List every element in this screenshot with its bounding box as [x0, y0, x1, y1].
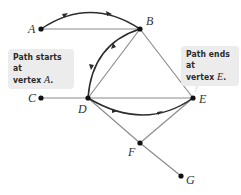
callout-end-line2: vertex E. [186, 71, 234, 83]
edge-f-g [140, 143, 181, 176]
callout-start-suffix: . [50, 75, 53, 85]
callout-path-end: Path ends at vertex E. [181, 46, 239, 86]
vertex-label-e: E [198, 92, 207, 106]
vertex-c [38, 95, 43, 100]
vertex-b [137, 26, 142, 31]
callout-end-suffix: . [223, 72, 226, 82]
callout-end-prefix: vertex [186, 72, 217, 82]
vertex-label-a: A [27, 22, 36, 36]
edge-f-e [140, 98, 193, 143]
path-segment-a-b [41, 13, 140, 30]
vertex-a [38, 26, 43, 31]
edge-d-f [88, 98, 140, 143]
vertex-label-c: C [28, 91, 37, 105]
vertex-label-d: D [77, 102, 87, 116]
graph-diagram: A B C D E F G [0, 0, 241, 195]
callout-path-start: Path starts at vertex A. [8, 49, 74, 89]
callout-start-line1: Path starts at [13, 52, 69, 74]
arrow-icon [112, 109, 118, 113]
callout-start-line2: vertex A. [13, 74, 69, 86]
edge-b-d [88, 29, 140, 98]
vertex-label-b: B [146, 14, 154, 28]
callout-start-prefix: vertex [13, 75, 44, 85]
vertex-label-g: G [186, 173, 195, 187]
callout-end-line1: Path ends at [186, 49, 234, 71]
vertex-e [190, 95, 195, 100]
vertex-f [137, 140, 142, 145]
arrow-icon [89, 64, 94, 70]
vertex-label-f: F [127, 145, 136, 159]
vertex-d [85, 95, 90, 100]
path-segment-d-e [88, 98, 193, 115]
vertex-g [178, 173, 183, 178]
